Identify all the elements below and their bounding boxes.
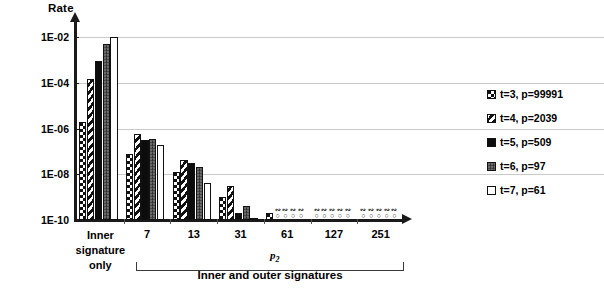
bar [141, 140, 148, 220]
legend-swatch [487, 138, 496, 147]
legend-label: t=6, p=97 [500, 160, 546, 172]
x-axis-category-label: Innersignatureonly [76, 228, 126, 273]
bar [243, 206, 250, 220]
y-axis-tick-label: 1E-10 [41, 214, 69, 226]
zero-value-marker: ∾○ [359, 207, 366, 220]
bar [219, 197, 226, 220]
y-axis-tick-label: 1E-08 [41, 168, 69, 180]
chart-figure: Rate 1E-021E-041E-061E-081E-10 ∾○∾○∾○∾○∾… [0, 0, 604, 298]
y-axis-tick-label: 1E-02 [41, 31, 69, 43]
group-caption: Inner and outer signatures [197, 269, 342, 281]
x-axis-tick-mark [311, 219, 312, 224]
bar: ∾○ [383, 207, 390, 220]
x-axis-category-label-line: 31 [234, 228, 246, 240]
bar [79, 122, 86, 220]
bar: ∾○ [391, 207, 398, 220]
zero-value-marker: ∾○ [328, 207, 335, 220]
x-axis-category-label-line: only [76, 258, 126, 273]
bar: ∾○ [289, 207, 296, 220]
zero-value-marker: ∾○ [344, 207, 351, 220]
x-axis-category-label-line: 61 [281, 228, 293, 240]
x-axis-tick-mark [264, 219, 265, 224]
bar-group: ∾○∾○∾○∾○∾○ [313, 37, 351, 220]
x-axis-category-label-line: signature [76, 243, 126, 258]
bar-group: ∾○∾○∾○∾○ [266, 37, 304, 220]
bar: ∾○ [297, 207, 304, 220]
x-axis-tick-mark [217, 219, 218, 224]
x-axis-tick-mark [357, 219, 358, 224]
x-axis-category-label: 61 [281, 228, 293, 240]
zero-value-marker: ∾○ [367, 207, 374, 220]
y-axis-tick-label: 1E-04 [41, 77, 69, 89]
bar-group [126, 37, 164, 220]
x-axis-category-label-line: 251 [371, 228, 389, 240]
legend-swatch [487, 90, 496, 99]
bar [266, 213, 273, 220]
x-axis-category-label: 7 [144, 228, 150, 240]
bar [196, 167, 203, 220]
zero-value-marker: ∾○ [313, 207, 320, 220]
bar: ∾○ [344, 207, 351, 220]
legend-swatch [487, 186, 496, 195]
zero-value-marker: ∾○ [274, 207, 281, 220]
bar: ∾○ [274, 207, 281, 220]
bar [95, 61, 102, 220]
legend-item[interactable]: t=3, p=99991 [487, 82, 603, 106]
legend-item[interactable]: t=5, p=509 [487, 130, 603, 154]
x-axis-category-label-line: 7 [144, 228, 150, 240]
bar [188, 163, 195, 220]
x-axis-title: p2 [270, 249, 280, 264]
zero-value-marker: ∾○ [375, 207, 382, 220]
legend-item[interactable]: t=6, p=97 [487, 154, 603, 178]
chart-legend: t=3, p=99991t=4, p=2039t=5, p=509t=6, p=… [487, 82, 603, 202]
legend-swatch [487, 162, 496, 171]
bar [157, 145, 164, 221]
bar [227, 186, 234, 220]
bar-group [79, 37, 117, 220]
x-axis-category-label: 127 [325, 228, 343, 240]
x-axis-tick-mark [170, 219, 171, 224]
legend-label: t=5, p=509 [500, 136, 551, 148]
legend-label: t=3, p=99991 [500, 88, 563, 100]
x-axis-tick-mark [124, 219, 125, 224]
x-axis-category-label-line: 13 [188, 228, 200, 240]
zero-value-marker: ∾○ [336, 207, 343, 220]
bar: ∾○ [336, 207, 343, 220]
bar: ∾○ [359, 207, 366, 220]
zero-value-marker: ∾○ [321, 207, 328, 220]
bar: ∾○ [321, 207, 328, 220]
bar [173, 172, 180, 220]
bar [87, 79, 94, 220]
x-axis-category-label: 31 [234, 228, 246, 240]
bar-group: ∾○∾○∾○∾○∾○ [359, 37, 397, 220]
zero-value-marker: ∾○ [383, 207, 390, 220]
bar-group [173, 37, 211, 220]
bar [180, 160, 187, 220]
bar: ∾○ [328, 207, 335, 220]
bar-group [219, 37, 257, 220]
bar [250, 218, 257, 220]
bar: ∾○ [282, 207, 289, 220]
zero-value-marker: ∾○ [297, 207, 304, 220]
zero-value-marker: ∾○ [289, 207, 296, 220]
bar [134, 134, 141, 220]
bar [235, 213, 242, 220]
y-axis-arrow [70, 12, 80, 22]
bar [103, 44, 110, 220]
x-axis-category-label: 13 [188, 228, 200, 240]
y-axis-tick-label: 1E-06 [41, 123, 69, 135]
legend-swatch [487, 114, 496, 123]
x-axis-category-label-line: Inner [76, 228, 126, 243]
zero-value-marker: ∾○ [282, 207, 289, 220]
legend-label: t=4, p=2039 [500, 112, 557, 124]
bar: ∾○ [313, 207, 320, 220]
bar [204, 183, 211, 220]
x-axis-category-label: 251 [371, 228, 389, 240]
plot-area: ∾○∾○∾○∾○∾○∾○∾○∾○∾○∾○∾○∾○∾○∾○ [77, 37, 404, 220]
zero-value-marker: ∾○ [391, 207, 398, 220]
bar [149, 139, 156, 220]
bar [110, 37, 117, 220]
legend-item[interactable]: t=7, p=61 [487, 178, 603, 202]
x-axis-category-label-line: 127 [325, 228, 343, 240]
legend-item[interactable]: t=4, p=2039 [487, 106, 603, 130]
